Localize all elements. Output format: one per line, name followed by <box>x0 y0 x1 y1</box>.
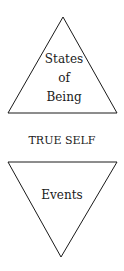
upper-line-3: Being <box>44 90 84 104</box>
lower-triangle <box>8 162 117 257</box>
center-label: TRUE SELF <box>0 134 124 148</box>
upper-line-2: of <box>44 71 84 85</box>
upper-line-1: States <box>44 52 84 66</box>
lower-line-1: Events <box>40 188 84 202</box>
